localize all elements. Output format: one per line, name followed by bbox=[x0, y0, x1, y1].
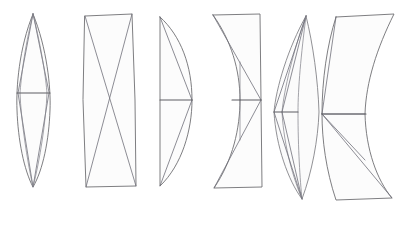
shape-curved-band-strip bbox=[322, 14, 394, 200]
shape-hourglass-bowtie bbox=[83, 14, 136, 187]
shape-4-outline bbox=[213, 14, 262, 188]
geometry-diagram bbox=[0, 0, 406, 226]
figure-canvas bbox=[0, 0, 406, 226]
shape-half-lens-right-bulge bbox=[160, 17, 192, 186]
shape-1-outline bbox=[17, 14, 50, 187]
shape-concave-left-panel bbox=[213, 14, 262, 188]
shape-2-outline bbox=[83, 14, 136, 187]
shape-narrow-vertical-lens bbox=[17, 14, 50, 187]
shape-3-outline bbox=[160, 17, 192, 186]
shape-crescent-lune bbox=[274, 16, 319, 199]
